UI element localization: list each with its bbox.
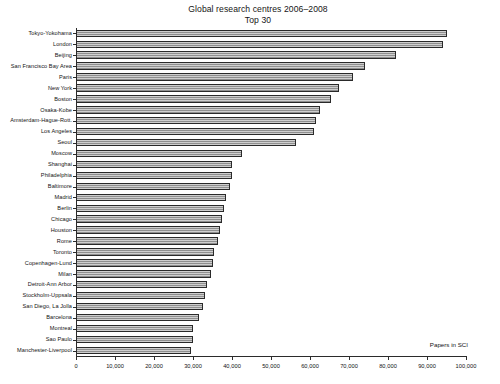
bar-row — [76, 269, 466, 280]
bar-row — [76, 236, 466, 247]
y-axis-label: London — [0, 41, 72, 48]
y-axis-label: New York — [0, 85, 72, 92]
bar-row — [76, 301, 466, 312]
y-axis-label: Berlin — [0, 205, 72, 212]
bar — [76, 303, 203, 310]
y-axis-label: Barcelona — [0, 314, 72, 321]
x-axis-tick-label: 20,000 — [145, 362, 163, 370]
y-axis-label: Moscow — [0, 150, 72, 157]
bar-row — [76, 170, 466, 181]
y-axis-label: San Francisco Bay Area — [0, 63, 72, 70]
x-axis-tick-label: 50,000 — [262, 362, 280, 370]
bar — [76, 270, 211, 277]
x-axis-tick — [349, 356, 350, 360]
bar-row — [76, 72, 466, 83]
chart-subtitle: Top 30 — [16, 15, 500, 26]
bar — [76, 128, 314, 135]
bar-series — [76, 28, 466, 356]
bar — [76, 237, 218, 244]
y-axis-label: Rome — [0, 238, 72, 245]
y-axis-label: Sao Paulo — [0, 336, 72, 343]
bar-chart: Global research centres 2006–2008 Top 30… — [0, 0, 500, 384]
bar — [76, 117, 316, 124]
bar — [76, 194, 226, 201]
x-axis-tick-label: 70,000 — [340, 362, 358, 370]
y-axis-label: Manchester-Liverpool — [0, 347, 72, 354]
bar-row — [76, 94, 466, 105]
bar-row — [76, 137, 466, 148]
bar-row — [76, 279, 466, 290]
bar — [76, 95, 331, 102]
y-axis-label: Paris — [0, 74, 72, 81]
bar-row — [76, 345, 466, 356]
bar-row — [76, 105, 466, 116]
bar — [76, 281, 207, 288]
y-axis-label: Milan — [0, 271, 72, 278]
y-axis-label: Los Angeles — [0, 128, 72, 135]
bar — [76, 161, 232, 168]
y-axis-label: Houston — [0, 227, 72, 234]
bar — [76, 41, 443, 48]
y-axis-label: Montreal — [0, 325, 72, 332]
chart-title-block: Global research centres 2006–2008 Top 30 — [0, 4, 500, 26]
bar — [76, 139, 296, 146]
bar — [76, 215, 222, 222]
bar-row — [76, 334, 466, 345]
x-axis-tick-label: 80,000 — [379, 362, 397, 370]
y-axis-label: Toronto — [0, 249, 72, 256]
bar-row — [76, 115, 466, 126]
x-axis-tick — [271, 356, 272, 360]
bar — [76, 248, 214, 255]
x-axis-tick — [466, 356, 467, 360]
y-axis-label: Copenhagen-Lund — [0, 260, 72, 267]
y-axis-label: Baltimore — [0, 183, 72, 190]
y-axis-label: San Diego, La Jolla — [0, 303, 72, 310]
bar-row — [76, 290, 466, 301]
bar-row — [76, 148, 466, 159]
bar — [76, 336, 193, 343]
bar — [76, 150, 242, 157]
y-axis-label: Seoul — [0, 139, 72, 146]
y-axis-label: Beijing — [0, 52, 72, 59]
x-axis-tick — [388, 356, 389, 360]
x-axis-tick — [115, 356, 116, 360]
x-axis-tick-label: 40,000 — [223, 362, 241, 370]
bar — [76, 314, 199, 321]
x-axis-tick — [232, 356, 233, 360]
bar — [76, 183, 230, 190]
bar-row — [76, 83, 466, 94]
bar-row — [76, 225, 466, 236]
y-axis-label: Madrid — [0, 194, 72, 201]
bar-row — [76, 126, 466, 137]
y-axis-label: Tokyo-Yokohama — [0, 30, 72, 37]
chart-title: Global research centres 2006–2008 — [16, 4, 500, 15]
y-axis-label: Stockholm-Uppsala — [0, 292, 72, 299]
x-axis-tick — [310, 356, 311, 360]
x-axis-tick-label: 30,000 — [184, 362, 202, 370]
x-axis-tick-label: 10,000 — [106, 362, 124, 370]
y-axis-label: Boston — [0, 96, 72, 103]
bar — [76, 73, 353, 80]
bar-row — [76, 159, 466, 170]
y-axis-label: Amsterdam-Hague-Rott. — [0, 117, 72, 124]
bar — [76, 30, 447, 37]
x-axis-tick — [154, 356, 155, 360]
bar-row — [76, 312, 466, 323]
bar-row — [76, 192, 466, 203]
y-axis-label: Shanghai — [0, 161, 72, 168]
bar — [76, 62, 365, 69]
y-axis-label: Philadelphia — [0, 172, 72, 179]
y-axis-label: Osaka-Kobe — [0, 107, 72, 114]
y-axis-labels: Tokyo-YokohamaLondonBeijingSan Francisco… — [0, 28, 72, 356]
bar-row — [76, 50, 466, 61]
x-axis-tick-label: 90,000 — [418, 362, 436, 370]
bar-row — [76, 214, 466, 225]
y-axis-label: Chicago — [0, 216, 72, 223]
x-axis-tick — [427, 356, 428, 360]
bar — [76, 325, 193, 332]
x-axis-tick-label: 60,000 — [301, 362, 319, 370]
bar — [76, 292, 205, 299]
plot-area — [76, 28, 466, 356]
y-axis-label: Detroit-Ann Arbor — [0, 281, 72, 288]
bar-row — [76, 39, 466, 50]
